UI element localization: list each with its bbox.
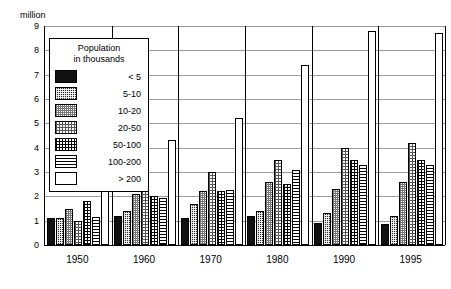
bar-1960-5-10 — [123, 211, 131, 245]
bar-1995--200 — [435, 33, 443, 245]
bar-1990--200 — [368, 31, 376, 245]
x-tick-label-1995: 1995 — [381, 254, 441, 265]
y-tick-label-3: 3 — [19, 168, 39, 177]
bar-group-1980 — [247, 26, 309, 245]
bar-1970-10-20 — [199, 191, 207, 245]
y-axis-unit-label: million — [20, 10, 46, 20]
legend-swatch-icon — [55, 138, 77, 151]
legend-item-label: 5-10 — [77, 89, 143, 99]
bar-1980-5-10 — [256, 211, 264, 245]
group-separator-1980 — [245, 26, 246, 245]
legend-title-line-2: in thousands — [55, 54, 143, 65]
bar-1950-10-20 — [65, 209, 73, 246]
bar-1970-50-100 — [217, 191, 225, 245]
legend-title-line-1: Population — [55, 43, 143, 54]
y-tick-label-6: 6 — [19, 95, 39, 104]
bar-1990-100-200 — [359, 165, 367, 245]
legend-item-label: 20-50 — [77, 123, 143, 133]
bar-1995-50-100 — [417, 160, 425, 245]
bar-1960-10-20 — [132, 194, 140, 245]
bar-1990-50-100 — [350, 160, 358, 245]
bar-1980-100-200 — [292, 170, 300, 245]
x-tick-label-1960: 1960 — [114, 254, 174, 265]
gridline-0 — [45, 245, 445, 246]
legend-item-label: > 200 — [77, 174, 143, 184]
legend-item-10-20: 10-20 — [55, 102, 143, 119]
legend-swatch-icon — [55, 70, 77, 83]
bar-1980-20-50 — [274, 160, 282, 245]
group-separator-1990 — [312, 26, 313, 245]
bar-1950--5 — [47, 218, 55, 245]
y-tick-label-4: 4 — [19, 144, 39, 153]
x-tick-label-1950: 1950 — [47, 254, 107, 265]
bar-1980--5 — [247, 216, 255, 245]
legend-item--200: > 200 — [55, 170, 143, 187]
group-separator-end — [445, 26, 446, 245]
bar-1995-20-50 — [408, 143, 416, 245]
legend-swatch-icon — [55, 104, 77, 117]
bar-1995--5 — [381, 224, 389, 245]
legend-item-50-100: 50-100 — [55, 136, 143, 153]
bar-1980--200 — [301, 65, 309, 245]
bar-1970-5-10 — [190, 204, 198, 245]
group-separator-1995 — [378, 26, 379, 245]
bar-1990-5-10 — [323, 213, 331, 245]
bar-group-1970 — [181, 26, 243, 245]
y-tick-label-5: 5 — [19, 119, 39, 128]
y-tick-label-8: 8 — [19, 46, 39, 55]
bar-1950-5-10 — [56, 218, 64, 245]
bar-1995-100-200 — [426, 165, 434, 245]
legend-item-5-10: 5-10 — [55, 85, 143, 102]
y-tick-label-9: 9 — [19, 22, 39, 31]
bar-1960-50-100 — [150, 196, 158, 245]
legend-swatch-icon — [55, 121, 77, 134]
bar-group-1995 — [381, 26, 443, 245]
bar-1950-20-50 — [74, 221, 82, 245]
bar-1980-10-20 — [265, 182, 273, 245]
legend-swatch-icon — [55, 87, 77, 100]
bar-1995-10-20 — [399, 182, 407, 245]
y-tick-label-7: 7 — [19, 71, 39, 80]
bar-1980-50-100 — [283, 184, 291, 245]
bar-1970--5 — [181, 218, 189, 245]
legend: Population in thousands < 55-1010-2020-5… — [49, 38, 149, 192]
legend-item--5: < 5 — [55, 68, 143, 85]
legend-swatch-icon — [55, 155, 77, 168]
y-tick-label-2: 2 — [19, 192, 39, 201]
bar-1970-100-200 — [226, 190, 234, 245]
y-tick-label-1: 1 — [19, 217, 39, 226]
x-tick-label-1990: 1990 — [314, 254, 374, 265]
bar-1990--5 — [314, 223, 322, 245]
bar-1960-100-200 — [159, 198, 167, 245]
bar-1990-10-20 — [332, 189, 340, 245]
bar-1970--200 — [235, 118, 243, 245]
legend-item-label: < 5 — [77, 72, 143, 82]
bar-1950-100-200 — [92, 217, 100, 245]
bar-1950-50-100 — [83, 201, 91, 245]
legend-title: Population in thousands — [55, 43, 143, 65]
bar-1970-20-50 — [208, 172, 216, 245]
y-tick-label-0: 0 — [19, 241, 39, 250]
bar-1990-20-50 — [341, 148, 349, 245]
legend-item-label: 50-100 — [77, 140, 143, 150]
legend-item-label: 100-200 — [77, 157, 143, 167]
bar-1995-5-10 — [390, 216, 398, 245]
bar-group-1990 — [314, 26, 376, 245]
bar-1960--5 — [114, 216, 122, 245]
legend-swatch-icon — [55, 172, 77, 185]
bar-chart: million 0123456789 195019601970198019901… — [0, 0, 451, 289]
bar-1960--200 — [168, 140, 176, 245]
legend-item-20-50: 20-50 — [55, 119, 143, 136]
legend-items: < 55-1010-2020-5050-100100-200> 200 — [55, 68, 143, 187]
legend-item-100-200: 100-200 — [55, 153, 143, 170]
group-separator-1970 — [178, 26, 179, 245]
x-tick-label-1970: 1970 — [181, 254, 241, 265]
legend-item-label: 10-20 — [77, 106, 143, 116]
x-tick-label-1980: 1980 — [247, 254, 307, 265]
